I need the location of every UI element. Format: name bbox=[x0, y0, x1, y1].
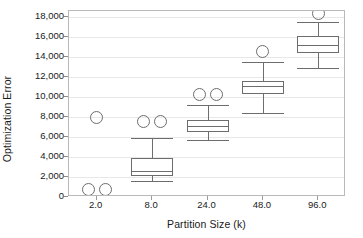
box-whisker-upper bbox=[263, 62, 264, 81]
y-axis-tick-mark bbox=[64, 36, 68, 37]
box-cap-upper bbox=[187, 105, 229, 106]
box-whisker-upper bbox=[208, 105, 209, 120]
y-axis-tick-mark bbox=[64, 176, 68, 177]
box-iqr bbox=[131, 158, 173, 176]
y-axis-tick-mark bbox=[64, 136, 68, 137]
y-axis-tick-label: 8,000 bbox=[14, 111, 64, 121]
box-cap-upper bbox=[297, 22, 339, 23]
y-axis-tick-mark bbox=[64, 16, 68, 17]
box-cap-lower bbox=[131, 181, 173, 182]
y-axis-tick-label: 10,000 bbox=[14, 91, 64, 101]
y-axis-tick-mark bbox=[64, 196, 68, 197]
x-axis-tick-label: 8.0 bbox=[121, 199, 181, 210]
box-outlier-point bbox=[137, 115, 150, 128]
gridline bbox=[69, 177, 344, 178]
y-axis-tick-label: 14,000 bbox=[14, 51, 64, 61]
box-outlier-point bbox=[193, 88, 206, 101]
box-median-line bbox=[242, 86, 284, 87]
y-axis-tick-mark bbox=[64, 56, 68, 57]
gridline bbox=[69, 97, 344, 98]
box-cap-lower bbox=[297, 68, 339, 69]
x-axis-tick-mark bbox=[151, 196, 152, 200]
box-outlier-point bbox=[90, 111, 103, 124]
box-whisker-lower bbox=[208, 132, 209, 140]
y-axis-tick-label: 18,000 bbox=[14, 11, 64, 21]
x-axis-tick-label: 24.0 bbox=[177, 199, 237, 210]
box-median-line bbox=[187, 126, 229, 127]
x-axis-tick-mark bbox=[262, 196, 263, 200]
box-cap-lower bbox=[242, 113, 284, 114]
gridline bbox=[69, 57, 344, 58]
gridline bbox=[69, 137, 344, 138]
box-outlier-point bbox=[154, 115, 167, 128]
box-whisker-lower bbox=[318, 53, 319, 69]
x-axis-tick-mark bbox=[207, 196, 208, 200]
box-iqr bbox=[242, 81, 284, 95]
x-axis-title: Partition Size (k) bbox=[68, 218, 345, 230]
gridline bbox=[69, 17, 344, 18]
box-outlier-point bbox=[82, 183, 95, 196]
box-cap-upper bbox=[242, 62, 284, 63]
x-axis-tick-label: 48.0 bbox=[232, 199, 292, 210]
box-cap-upper bbox=[131, 138, 173, 139]
plot-area bbox=[68, 10, 345, 196]
x-axis-tick-mark bbox=[317, 196, 318, 200]
box-outlier-point bbox=[99, 183, 112, 196]
box-whisker-upper bbox=[318, 22, 319, 37]
y-axis-tick-label: 2,000 bbox=[14, 171, 64, 181]
box-whisker-lower bbox=[263, 94, 264, 113]
box-outlier-point bbox=[210, 88, 223, 101]
y-axis-tick-label: 16,000 bbox=[14, 31, 64, 41]
y-axis-tick-mark bbox=[64, 76, 68, 77]
y-axis-tick-labels: 02,0004,0006,0008,00010,00012,00014,0001… bbox=[12, 0, 64, 238]
box-cap-lower bbox=[187, 140, 229, 141]
box-median-line bbox=[297, 45, 339, 46]
y-axis-tick-mark bbox=[64, 156, 68, 157]
boxplot-figure: Optimization Error 02,0004,0006,0008,000… bbox=[0, 0, 363, 238]
y-axis-tick-label: 6,000 bbox=[14, 131, 64, 141]
y-axis-tick-label: 0 bbox=[14, 191, 64, 201]
box-outlier-point bbox=[312, 10, 325, 20]
y-axis-tick-mark bbox=[64, 116, 68, 117]
x-axis-tick-mark bbox=[96, 196, 97, 200]
box-median-line bbox=[131, 171, 173, 172]
x-axis-tick-label: 96.0 bbox=[287, 199, 347, 210]
gridline bbox=[69, 77, 344, 78]
gridline bbox=[69, 117, 344, 118]
y-axis-tick-mark bbox=[64, 96, 68, 97]
x-axis-tick-label: 2.0 bbox=[66, 199, 126, 210]
y-axis-tick-label: 4,000 bbox=[14, 151, 64, 161]
gridline bbox=[69, 157, 344, 158]
box-whisker-upper bbox=[152, 138, 153, 158]
y-axis-tick-label: 12,000 bbox=[14, 71, 64, 81]
